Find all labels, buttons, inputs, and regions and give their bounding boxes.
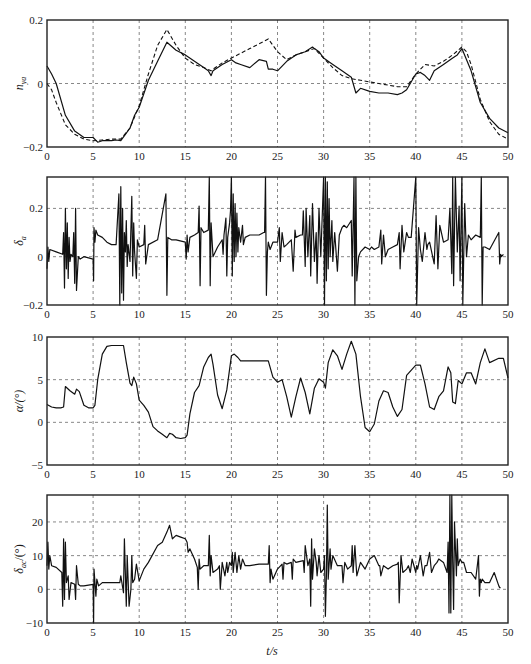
y-tick-label: −5 xyxy=(31,459,43,471)
x-tick-label: 50 xyxy=(503,626,515,638)
y-tick-label: −0.2 xyxy=(23,141,43,153)
subplot-n-ya: 05101520253035404550−0.200.2nya xyxy=(12,14,514,162)
subplot-alpha: 05101520253035404550−50510α/(°) xyxy=(12,331,514,480)
x-tick-label: 40 xyxy=(410,150,422,162)
x-tick-label: 5 xyxy=(90,468,96,480)
y-tick-label: 0 xyxy=(38,251,44,263)
x-tick-label: 10 xyxy=(134,150,146,162)
x-tick-label: 5 xyxy=(90,626,96,638)
x-tick-label: 30 xyxy=(318,626,330,638)
y-tick-label: 0.2 xyxy=(29,14,43,26)
y-tick-label: 0 xyxy=(38,416,44,428)
x-tick-label: 50 xyxy=(503,150,515,162)
x-tick-label: 30 xyxy=(318,308,330,320)
x-tick-label: 40 xyxy=(410,626,422,638)
x-tick-label: 45 xyxy=(456,468,468,480)
x-tick-label: 30 xyxy=(318,150,330,162)
y-tick-label: 10 xyxy=(32,331,44,343)
x-tick-label: 35 xyxy=(364,150,376,162)
x-tick-label: 35 xyxy=(364,626,376,638)
x-tick-label: 25 xyxy=(272,150,284,162)
x-tick-label: 40 xyxy=(410,468,422,480)
y-tick-label: 20 xyxy=(32,516,44,528)
subplot-delta-a: 05101520253035404550−0.200.2δa xyxy=(12,177,514,320)
subplot-delta-ac: 05101520253035404550−1001020δac/(°) xyxy=(12,495,514,638)
y-tick-label: 10 xyxy=(32,550,44,562)
y-axis-label: nya xyxy=(12,77,28,91)
x-tick-label: 10 xyxy=(134,468,146,480)
x-tick-label: 15 xyxy=(180,150,192,162)
y-tick-label: 0.2 xyxy=(29,202,43,214)
x-tick-label: 0 xyxy=(44,468,50,480)
x-tick-label: 20 xyxy=(226,626,238,638)
x-tick-label: 10 xyxy=(134,626,146,638)
series-control xyxy=(47,177,503,305)
y-tick-label: −10 xyxy=(26,617,44,629)
y-axis-label: δac/(°) xyxy=(12,544,28,573)
x-tick-label: 50 xyxy=(503,468,515,480)
x-tick-label: 15 xyxy=(180,308,192,320)
x-tick-label: 20 xyxy=(226,468,238,480)
y-tick-label: 0 xyxy=(38,78,44,90)
x-tick-label: 35 xyxy=(364,468,376,480)
x-tick-label: 45 xyxy=(456,150,468,162)
y-axis-label: δa xyxy=(12,236,28,246)
series-deflection xyxy=(47,495,501,623)
x-tick-label: 45 xyxy=(456,308,468,320)
x-tick-label: 20 xyxy=(226,150,238,162)
x-tick-label: 0 xyxy=(44,308,50,320)
x-tick-label: 0 xyxy=(44,150,50,162)
x-tick-label: 25 xyxy=(272,468,284,480)
x-tick-label: 40 xyxy=(410,308,422,320)
x-tick-label: 10 xyxy=(134,308,146,320)
x-tick-label: 35 xyxy=(364,308,376,320)
x-tick-label: 25 xyxy=(272,308,284,320)
x-tick-label: 15 xyxy=(180,626,192,638)
x-tick-label: 0 xyxy=(44,626,50,638)
figure-canvas: 05101520253035404550−0.200.2nya 05101520… xyxy=(0,0,531,664)
x-tick-label: 5 xyxy=(90,308,96,320)
x-tick-label: 45 xyxy=(456,626,468,638)
x-tick-label: 30 xyxy=(318,468,330,480)
x-tick-label: 15 xyxy=(180,468,192,480)
y-tick-label: −0.2 xyxy=(23,299,43,311)
x-axis-label: t/s xyxy=(266,644,278,658)
y-tick-label: 5 xyxy=(38,374,44,386)
x-tick-label: 20 xyxy=(226,308,238,320)
x-tick-label: 50 xyxy=(503,308,515,320)
x-tick-label: 5 xyxy=(90,150,96,162)
x-tick-label: 25 xyxy=(272,626,284,638)
y-tick-label: 0 xyxy=(38,583,44,595)
y-axis-label: α/(°) xyxy=(12,390,26,412)
